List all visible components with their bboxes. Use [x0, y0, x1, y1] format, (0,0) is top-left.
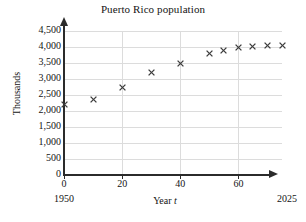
y-axis-tick-label: 3,500	[39, 56, 62, 67]
gridline-horizontal	[64, 127, 282, 128]
gridline-horizontal	[64, 31, 282, 32]
x-axis-title-variable: t	[174, 195, 177, 206]
data-point-marker	[206, 50, 213, 57]
gridline-horizontal	[64, 95, 282, 96]
data-point-marker	[220, 47, 227, 54]
x-axis-tick-label: 20	[107, 178, 137, 189]
data-point-marker	[177, 60, 184, 67]
y-axis-tick-label: 3,000	[39, 72, 62, 83]
plot-area	[64, 31, 282, 175]
x-axis-tick-label: 40	[165, 178, 195, 189]
data-point-marker	[90, 96, 97, 103]
x-axis-start-annotation: 1950	[45, 193, 83, 204]
y-axis-tick-label: 4,000	[39, 40, 62, 51]
data-point-marker	[264, 42, 271, 49]
data-point-marker	[235, 44, 242, 51]
data-point-marker	[148, 69, 155, 76]
data-point-marker	[249, 43, 256, 50]
x-axis-tick-label: 0	[49, 178, 79, 189]
y-axis-line	[63, 24, 65, 176]
y-axis-tick-label: 500	[46, 152, 61, 163]
gridline-horizontal	[64, 63, 282, 64]
data-point-marker	[119, 84, 126, 91]
y-axis-tick-label: 1,500	[39, 120, 62, 131]
x-axis-end-annotation: 2025	[268, 193, 306, 204]
data-point-marker	[61, 101, 68, 108]
gridline-horizontal	[64, 79, 282, 80]
y-axis-arrow-icon	[60, 17, 68, 26]
x-axis-tick-label: 60	[223, 178, 253, 189]
gridline-horizontal	[64, 159, 282, 160]
y-axis-title: Thousands	[11, 54, 22, 134]
y-axis-tick-label: 2,500	[39, 88, 62, 99]
y-axis-tick-label: 1,000	[39, 136, 62, 147]
x-axis-line	[64, 174, 271, 176]
gridline-horizontal	[64, 143, 282, 144]
x-axis-title: Year t	[125, 195, 205, 206]
gridline-vertical	[122, 31, 123, 175]
data-point-marker	[279, 42, 286, 49]
gridline-vertical	[238, 31, 239, 175]
gridline-horizontal	[64, 111, 282, 112]
x-axis-title-text: Year	[153, 195, 174, 206]
y-axis-tick-label: 2,000	[39, 104, 62, 115]
chart-figure: Puerto Rico population 05001,0001,5002,0…	[0, 0, 306, 222]
gridline-vertical	[180, 31, 181, 175]
x-axis-arrow-icon	[269, 170, 278, 178]
y-axis-tick-label: 4,500	[39, 24, 62, 35]
